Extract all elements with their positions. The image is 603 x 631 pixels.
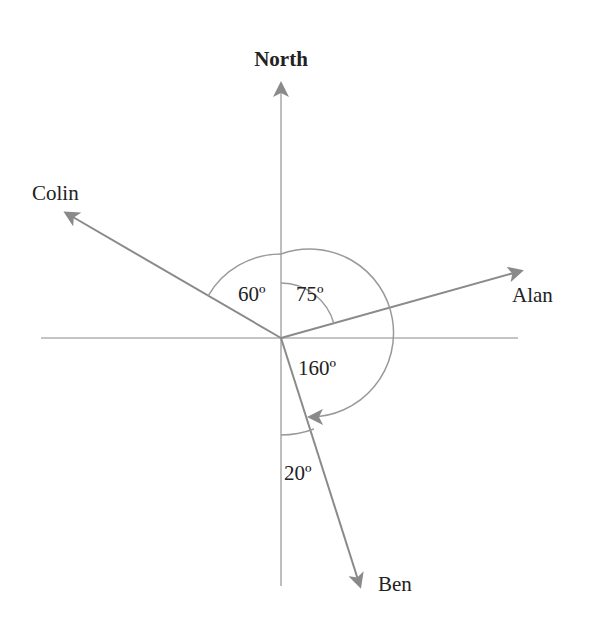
arc-20 [281, 429, 314, 435]
alan-label: Alan [512, 283, 553, 307]
colin-arrow [66, 213, 281, 338]
angle-160-label: 160º [298, 356, 337, 380]
north-label: North [254, 47, 308, 71]
colin-label: Colin [32, 181, 79, 205]
angle-75-label: 75º [296, 282, 324, 306]
angle-20-label: 20º [284, 461, 312, 485]
bearings-diagram: North Colin Alan Ben 60º 75º 160º 20º [0, 0, 603, 631]
ben-label: Ben [378, 572, 412, 596]
angle-60-label: 60º [238, 282, 266, 306]
